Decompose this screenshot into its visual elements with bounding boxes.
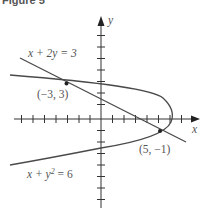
intersection-point-1 <box>65 82 69 86</box>
parabola-eq-rhs: = 6 <box>55 168 73 180</box>
x-axis-label: x <box>191 123 198 135</box>
x-axis-arrow-icon <box>191 116 200 123</box>
point-label-1: (−3, 3) <box>37 88 69 101</box>
y-axis-arrow-icon <box>98 16 105 26</box>
intersection-point-2 <box>158 129 162 133</box>
line-equation-label: x + 2y = 3 <box>27 47 77 60</box>
parabola-equation-label: x + y2 = 6 <box>26 167 73 181</box>
y-axis-label: y <box>107 14 114 27</box>
graph: y x x + 2y = 3 (−3, 3) (5, −1) x + y2 = … <box>0 0 206 210</box>
point-label-2: (5, −1) <box>139 143 171 156</box>
parabola-eq-x: x + y <box>26 168 52 181</box>
